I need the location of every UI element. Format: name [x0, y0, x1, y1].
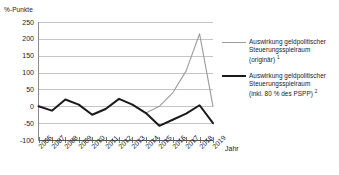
legend-swatch-bar [222, 42, 246, 43]
legend-entry-1: Auswirkung geldpolitischerSteuerungsspie… [221, 38, 339, 65]
legend-entry-2: Auswirkung geldpolitischerSteuerungsspie… [221, 72, 339, 99]
chart-legend: Auswirkung geldpolitischerSteuerungsspie… [221, 38, 339, 105]
legend-label-line-3: (originär) 1 [249, 54, 339, 64]
y-tick-label: 150 [2, 52, 34, 59]
legend-label-line-2: Steuerungsspielraum [249, 80, 339, 88]
legend-label-line-3: (inkl. 80 % des PSPP) 2 [249, 88, 339, 98]
legend-footnote-marker: 1 [277, 55, 280, 60]
legend-label-line-1: Auswirkung geldpolitischer [249, 72, 339, 80]
y-tick-label: 100 [2, 69, 34, 76]
x-axis-caption: Jahr [225, 145, 239, 153]
line-chart-figure: %-Punkte 250200150100500-50-100 20062007… [0, 0, 339, 175]
y-tick-label: 250 [2, 19, 34, 26]
legend-label-line-2: Steuerungsspielraum [249, 46, 339, 54]
y-tick-label: 200 [2, 35, 34, 42]
series-line-2 [39, 99, 214, 126]
y-tick-label: 0 [2, 103, 34, 110]
data-series-group [39, 34, 214, 126]
y-tick-label: -100 [2, 137, 34, 144]
legend-swatch-bar [222, 75, 246, 77]
legend-label-line-1: Auswirkung geldpolitischer [249, 38, 339, 46]
y-tick-label: -50 [2, 120, 34, 127]
legend-footnote-marker: 2 [315, 89, 318, 94]
y-tick-label: 50 [2, 86, 34, 93]
gridlines [39, 23, 214, 124]
legend-line-swatch [222, 75, 246, 77]
legend-line-swatch [222, 42, 246, 43]
